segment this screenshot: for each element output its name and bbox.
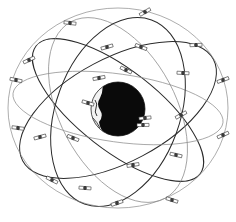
satellite-icon — [170, 152, 183, 159]
satellite-icon — [111, 199, 124, 207]
constellation-svg — [0, 0, 236, 222]
satellite-icon — [93, 75, 106, 81]
satellite-icon — [190, 43, 202, 47]
earth — [91, 78, 150, 140]
satellite-icon — [79, 186, 91, 191]
satellite-icon — [12, 125, 24, 131]
satellite-icon — [101, 43, 114, 50]
satellite-icon — [177, 71, 189, 76]
satellite-icon — [166, 196, 179, 204]
satellite-icon — [34, 134, 47, 141]
satellite-icon — [23, 56, 36, 65]
gps-constellation-diagram — [0, 0, 236, 222]
satellite-icon — [46, 175, 59, 184]
satellite-icon — [137, 123, 149, 127]
